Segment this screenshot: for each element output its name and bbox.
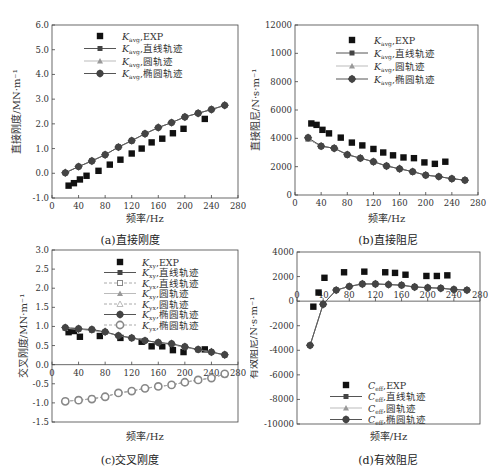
exp-marker-square-icon (148, 343, 154, 349)
y-axis-title: 直接阻尼/N·s·m⁻¹ (250, 69, 261, 151)
series (65, 116, 208, 189)
series (308, 120, 448, 167)
diamond-marker-icon (348, 75, 356, 83)
open-diamond-marker-icon (168, 381, 175, 388)
legend-label: Kavg,圆轨迹 (121, 56, 173, 69)
y-tick-label: 6000 (270, 105, 292, 115)
y-tick-label: 1.5 (35, 302, 49, 312)
x-tick-label: 200 (177, 368, 193, 378)
x-tick-label: 240 (444, 198, 460, 208)
exp-marker-square-icon (434, 273, 440, 279)
square-marker-icon (98, 46, 103, 51)
x-tick-label: 80 (100, 201, 111, 211)
x-tick-label: 80 (100, 368, 111, 378)
exp-marker-square-icon (319, 127, 325, 133)
diamond-marker-icon (463, 286, 471, 294)
diamond-marker-icon (207, 348, 215, 356)
diamond-marker-icon (461, 176, 469, 184)
y-tick-label: 2000 (272, 272, 294, 282)
y-tick-label: 3.0 (35, 94, 49, 104)
x-axis-title: 频率/Hz (126, 212, 163, 224)
y-tick-label: 1000 (270, 48, 292, 58)
x-tick-label: 280 (230, 368, 246, 378)
diamond-marker-icon (382, 162, 390, 170)
y-tick-label: -8000 (269, 394, 294, 404)
exp-marker-square-icon (361, 268, 367, 274)
exp-marker-square-icon (97, 33, 103, 39)
exp-marker-square-icon (326, 130, 332, 136)
exp-marker-square-icon (148, 139, 154, 145)
y-tick-label: 1.0 (35, 321, 49, 331)
chart-d-effective-damping: -10000-8000-6000-4000-200002000400004080… (250, 240, 497, 455)
diamond-marker-icon (306, 341, 314, 349)
x-tick-label: 40 (73, 368, 84, 378)
x-tick-label: 80 (342, 198, 353, 208)
x-tick-label: 160 (393, 290, 409, 300)
x-tick-label: 120 (124, 368, 140, 378)
exp-marker-square-icon (95, 168, 101, 174)
exp-marker-square-icon (421, 159, 427, 165)
legend-label: Kavg,EXP (373, 35, 416, 48)
y-tick-label: 0.5 (35, 341, 49, 351)
diamond-marker-icon (397, 281, 405, 289)
exp-marker-square-icon (180, 126, 186, 132)
exp-marker-square-icon (202, 116, 208, 122)
exp-marker-square-icon (77, 334, 83, 340)
open-diamond-marker-icon (155, 383, 162, 390)
open-diamond-marker-icon (195, 376, 202, 383)
y-tick-label: 4.0 (35, 69, 49, 79)
exp-marker-square-icon (138, 145, 144, 151)
legend-label: Kavg,EXP (121, 31, 164, 44)
diamond-marker-icon (194, 345, 202, 353)
exp-marker-square-icon (349, 139, 355, 145)
exp-marker-square-icon (423, 273, 429, 279)
diamond-marker-icon (221, 101, 229, 109)
x-tick-label: 200 (418, 198, 434, 208)
y-tick-label: 2.5 (35, 264, 49, 274)
chart-b-direct-damping: 0200040006000800010001200004080120160200… (250, 0, 497, 230)
x-tick-label: 0 (49, 201, 54, 211)
diamond-marker-icon (356, 154, 364, 162)
y-tick-label: -1.5 (33, 417, 49, 427)
open-diamond-marker-icon (116, 321, 123, 328)
series (61, 101, 229, 177)
x-tick-label: 160 (150, 201, 166, 211)
series (63, 103, 227, 175)
y-tick-label: 0.0 (35, 168, 49, 178)
y-tick-label: 2.0 (35, 119, 49, 129)
open-diamond-marker-icon (221, 370, 228, 377)
y-tick-label: 12000 (265, 20, 292, 30)
diamond-marker-icon (141, 130, 149, 138)
exp-marker-square-icon (117, 259, 123, 265)
y-tick-label: 4000 (270, 133, 292, 143)
exp-marker-square-icon (97, 333, 103, 339)
diamond-marker-icon (181, 113, 189, 121)
exp-marker-square-icon (359, 142, 365, 148)
diamond-marker-icon (88, 157, 96, 165)
x-tick-label: 120 (124, 201, 140, 211)
diamond-marker-icon (96, 69, 104, 77)
diamond-marker-icon (384, 280, 392, 288)
exp-marker-square-icon (444, 272, 450, 278)
square-marker-icon (350, 51, 355, 56)
legend-label: Ceff,EXP (368, 380, 407, 392)
exp-marker-square-icon (107, 161, 113, 167)
y-axis-title: 交叉刚度/MN·m⁻¹ (17, 294, 29, 378)
y-tick-label: -1.0 (33, 193, 49, 203)
open-triangle-marker-icon (117, 301, 123, 307)
y-tick-label: 0 (287, 190, 292, 200)
diamond-marker-icon (435, 172, 443, 180)
diamond-marker-icon (116, 310, 124, 318)
x-tick-label: 80 (344, 290, 355, 300)
exp-marker-square-icon (370, 146, 376, 152)
legend-label: Kavg,直线轨迹 (121, 43, 183, 56)
legend: Kavg,EXPKavg,直线轨迹Kavg,圆轨迹Kavg,椭圆轨迹 (84, 31, 183, 82)
open-diamond-marker-icon (181, 379, 188, 386)
diamond-marker-icon (128, 136, 136, 144)
exp-marker-square-icon (315, 289, 321, 295)
y-tick-label: 8000 (270, 77, 292, 87)
diamond-marker-icon (369, 158, 377, 166)
open-diamond-marker-icon (102, 393, 109, 400)
legend: Ceff,EXPCeff,直线轨迹Ceff,圆轨迹Ceff,椭圆轨迹 (330, 380, 426, 427)
exp-marker-square-icon (349, 37, 355, 43)
